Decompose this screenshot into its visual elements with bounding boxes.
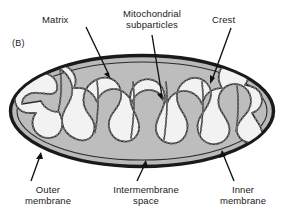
label-outer-line1: Outer	[12, 184, 84, 195]
label-outer-membrane: Outer membrane	[12, 184, 84, 206]
label-intermembrane-space: Intermembrane space	[99, 184, 193, 206]
mitochondrion-figure: (B) Matrix Mitochondrial subparticles Cr…	[0, 0, 285, 210]
label-inner-line1: Inner	[207, 184, 279, 195]
label-mitochondrial-subparticles: Mitochondrial subparticles	[113, 8, 191, 30]
mitochondrion-diagram	[0, 0, 285, 210]
label-crest: Crest	[212, 14, 235, 25]
label-intermembrane-line1: Intermembrane	[99, 184, 193, 195]
label-intermembrane-line2: space	[99, 195, 193, 206]
label-subparticles-line1: Mitochondrial	[113, 8, 191, 19]
label-inner-line2: membrane	[207, 195, 279, 206]
panel-label: (B)	[12, 38, 25, 49]
label-inner-membrane: Inner membrane	[207, 184, 279, 206]
leader-outer-membrane	[31, 152, 43, 181]
label-subparticles-line2: subparticles	[113, 19, 191, 30]
label-outer-line2: membrane	[12, 195, 84, 206]
label-matrix: Matrix	[42, 14, 68, 25]
